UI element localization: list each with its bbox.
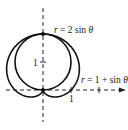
origin-point — [41, 88, 45, 92]
cardioid-equation-label: r = 1 + sin θ — [81, 75, 128, 85]
polar-diagram: r = 2 sin θ r = 1 + sin θ 1 1 — [0, 0, 128, 130]
x-axis-arrow-icon — [119, 88, 126, 93]
y-tick-label: 1 — [33, 58, 38, 68]
x-tick-label: 1 — [69, 94, 74, 104]
circle-equation-label: r = 2 sin θ — [54, 25, 93, 35]
top-intersection-point — [41, 32, 45, 36]
